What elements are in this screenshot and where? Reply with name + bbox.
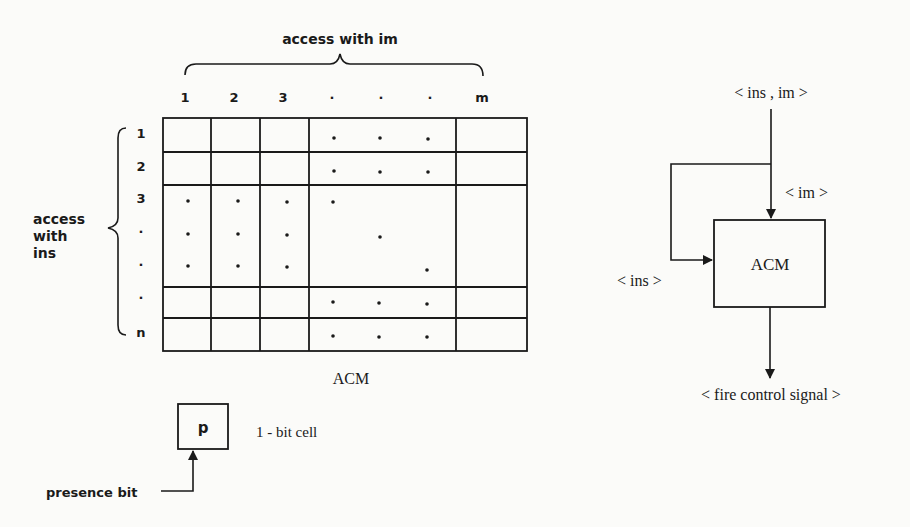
column-brace	[185, 54, 483, 76]
acm-matrix-grid	[163, 118, 527, 351]
matrix-ellipsis-dots	[186, 136, 430, 339]
column-label: ·	[379, 90, 384, 105]
output-label: < fire control signal >	[701, 386, 841, 404]
row-axis-label-line: access	[33, 211, 85, 227]
input-label: < ins , im >	[734, 84, 808, 101]
row-label: 1	[136, 126, 145, 141]
column-label: 1	[180, 90, 189, 105]
column-label: m	[475, 90, 489, 105]
acm-box-label: ACM	[751, 255, 790, 274]
row-label: n	[136, 325, 145, 340]
row-axis-label: access with ins	[33, 211, 85, 261]
row-label: 2	[136, 159, 145, 174]
row-label: ·	[139, 257, 144, 272]
cell-label: 1 - bit cell	[256, 424, 317, 440]
ins-label: < ins >	[617, 272, 662, 289]
matrix-title: ACM	[333, 370, 369, 387]
column-label: 3	[278, 90, 287, 105]
row-labels: 1 2 3 · · · n	[136, 126, 145, 340]
column-axis-label: access with im	[282, 31, 398, 47]
row-axis-label-line: ins	[33, 245, 56, 261]
column-label: 2	[229, 90, 238, 105]
row-axis-label-line: with	[33, 228, 67, 244]
row-brace	[108, 128, 126, 335]
presence-bit-arrow	[161, 451, 193, 491]
row-label: ·	[139, 224, 144, 239]
presence-bit-label: presence bit	[46, 485, 137, 500]
column-label: ·	[330, 90, 335, 105]
acm-diagram: access with im 1 2 3 · · · m access with…	[0, 0, 910, 527]
column-labels: 1 2 3 · · · m	[180, 90, 488, 105]
column-label: ·	[428, 90, 433, 105]
row-label: ·	[139, 290, 144, 305]
ins-feedback-arrow	[671, 164, 771, 260]
row-label: 3	[136, 191, 145, 206]
cell-symbol: p	[198, 419, 209, 437]
im-label: < im >	[785, 184, 828, 201]
